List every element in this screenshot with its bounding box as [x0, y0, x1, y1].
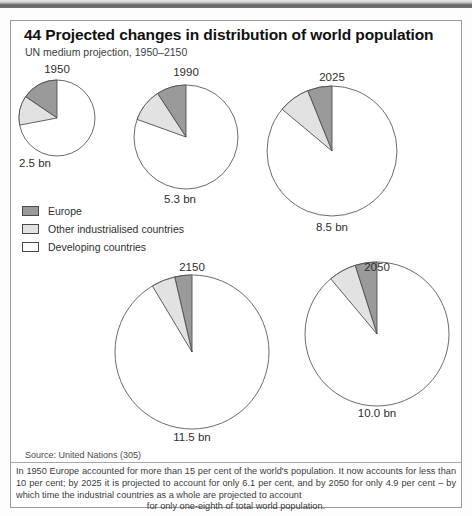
pie-year-label-2050: 2050	[327, 261, 427, 273]
footnote: In 1950 Europe accounted for more than 1…	[16, 466, 456, 513]
footnote-divider	[11, 462, 461, 463]
scan-top-rule	[0, 6, 472, 8]
legend-label-europe: Europe	[48, 205, 82, 217]
pie-total-label-1950: 2.5 bn	[0, 157, 85, 169]
legend-item-europe: Europe	[22, 202, 184, 219]
legend-swatch-europe	[22, 206, 39, 216]
pie-2150	[112, 272, 272, 432]
chart-subtitle: UN medium projection, 1950–2150	[25, 46, 187, 58]
pie-year-label-2150: 2150	[142, 261, 242, 273]
pie-2025	[264, 83, 400, 219]
legend-item-other-industrialised: Other industrialised countries	[22, 220, 184, 237]
pie-year-label-1950: 1950	[7, 63, 107, 75]
legend-swatch-developing	[22, 242, 39, 252]
legend: Europe Other industrialised countries De…	[22, 202, 184, 256]
source-note: Source: United Nations (305)	[25, 450, 141, 460]
legend-swatch-other-industrialised	[22, 224, 39, 234]
legend-item-developing: Developing countries	[22, 238, 184, 255]
pie-year-label-2025: 2025	[282, 71, 382, 83]
pie-1950	[16, 77, 98, 159]
pie-year-label-1990: 1990	[136, 66, 236, 78]
pie-total-label-2025: 8.5 bn	[282, 221, 382, 233]
pie-total-label-2150: 11.5 bn	[142, 431, 242, 443]
pie-1990	[131, 82, 241, 192]
legend-label-other-industrialised: Other industrialised countries	[48, 223, 184, 235]
footnote-last-line: for only one-eighth of total world popul…	[16, 501, 456, 513]
pie-total-label-2050: 10.0 bn	[327, 407, 427, 419]
footnote-text: In 1950 Europe accounted for more than 1…	[16, 466, 456, 500]
pie-2050	[302, 259, 452, 409]
page-title: 44 Projected changes in distribution of …	[24, 26, 444, 43]
legend-label-developing: Developing countries	[48, 241, 146, 253]
